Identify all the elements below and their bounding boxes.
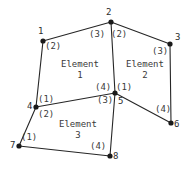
mesh-node-8: [107, 153, 112, 158]
local-node-label-element-2-6: (4): [155, 105, 171, 114]
local-node-label-element-3-5: (3): [97, 96, 113, 105]
node-label-7: 7: [10, 141, 15, 150]
element-3-label: Element3: [47, 119, 109, 141]
node-label-3: 3: [175, 33, 180, 42]
element-2-name: Element: [114, 59, 176, 70]
node-label-1: 1: [38, 27, 43, 36]
element-2-label: Element2: [114, 59, 176, 81]
local-node-label-element-1-1: (2): [45, 42, 61, 51]
node-label-2: 2: [106, 8, 111, 17]
local-node-label-element-1-4: (1): [38, 95, 54, 104]
node-label-5: 5: [118, 97, 123, 106]
local-node-label-element-2-3: (3): [152, 47, 168, 56]
local-node-label-element-2-2: (2): [111, 30, 127, 39]
mesh-node-3: [167, 41, 172, 46]
node-label-6: 6: [174, 120, 179, 129]
mesh-node-2: [108, 19, 113, 24]
local-node-label-element-1-5: (4): [95, 83, 111, 92]
mesh-node-7: [16, 143, 21, 148]
local-node-label-element-2-5: (1): [116, 83, 132, 92]
local-node-label-element-1-2: (3): [89, 30, 105, 39]
local-node-label-element-3-7: (1): [21, 133, 37, 142]
node-label-8: 8: [113, 152, 118, 161]
element-1-label: Element1: [49, 59, 111, 81]
element-1-name: Element: [49, 59, 111, 70]
node-label-4: 4: [27, 102, 32, 111]
element-1-number: 1: [49, 70, 111, 81]
element-3-name: Element: [47, 119, 109, 130]
element-3-number: 3: [47, 130, 109, 141]
mesh-node-6: [168, 120, 173, 125]
local-node-label-element-3-8: (4): [90, 142, 106, 151]
local-node-label-element-3-4: (2): [38, 110, 54, 119]
element-2-number: 2: [114, 70, 176, 81]
mesh-diagram: 12345678 (2)(3)(1)(4)(2)(3)(1)(4)(2)(3)(…: [0, 0, 189, 171]
